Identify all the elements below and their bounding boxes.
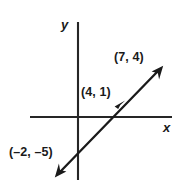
x-axis-label: x — [163, 121, 170, 134]
point-label-lower: (–2, –5) — [9, 146, 53, 159]
y-axis-label: y — [61, 18, 68, 31]
point-label-upper: (7, 4) — [114, 51, 144, 64]
point-label-middle: (4, 1) — [81, 86, 111, 99]
coordinate-plane-figure: (7, 4) (4, 1) (–2, –5) y x — [0, 0, 182, 185]
